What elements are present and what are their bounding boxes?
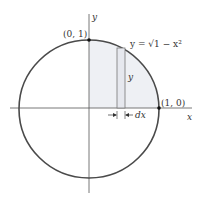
dx-arrowhead-left (113, 113, 117, 117)
point-top (87, 38, 91, 42)
curve-equation-label: y = √1 − x² (129, 39, 182, 49)
strip-height-label: y (127, 72, 134, 82)
point-right-label: (1, 0) (161, 98, 185, 108)
area-strip (117, 48, 125, 108)
point-top-label: (0, 1) (63, 29, 87, 39)
x-axis-label: x (187, 112, 192, 122)
dx-arrowhead-right (125, 113, 129, 117)
strip-width-label: dx (135, 110, 146, 120)
quarter-circle-area-diagram: y x (0, 1) (1, 0) y = √1 − x² y dx (0, 0, 205, 198)
y-axis-label: y (91, 12, 98, 22)
